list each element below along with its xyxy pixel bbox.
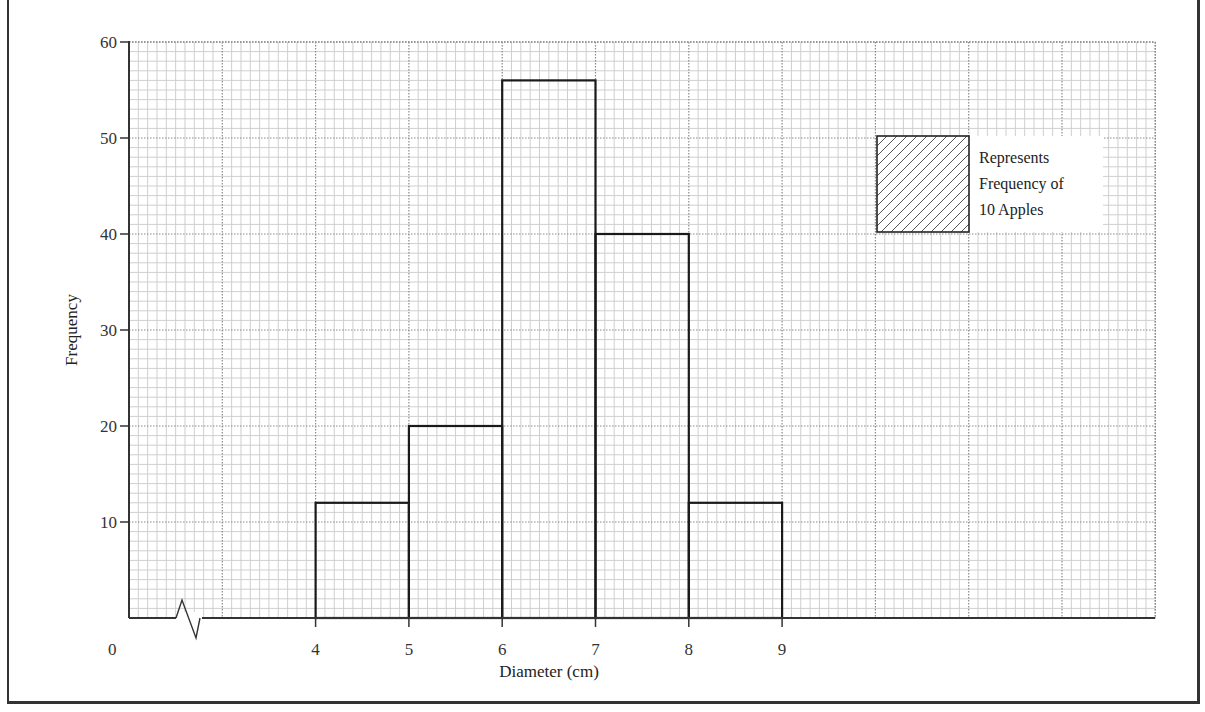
y-tick-label: 50 — [100, 129, 117, 148]
histogram-chart: 102030405060 456789 Represents Frequency… — [0, 0, 1205, 712]
x-tick-label: 6 — [498, 640, 507, 659]
y-tick-label: 40 — [100, 225, 117, 244]
x-tick-label: 7 — [591, 640, 600, 659]
x-tick-label: 4 — [311, 640, 320, 659]
y-tick-label: 30 — [100, 321, 117, 340]
y-tick-label: 10 — [100, 513, 117, 532]
hatch-line — [791, 136, 887, 232]
origin-label: 0 — [108, 640, 117, 659]
legend-line-2: Frequency of — [979, 175, 1065, 193]
x-tick-label: 8 — [685, 640, 694, 659]
legend-line-1: Represents — [979, 149, 1049, 167]
y-axis-ticks: 102030405060 — [100, 33, 129, 532]
legend-line-3: 10 Apples — [979, 201, 1043, 219]
x-axis-title: Diameter (cm) — [499, 662, 599, 681]
x-tick-label: 5 — [405, 640, 414, 659]
y-tick-label: 20 — [100, 417, 117, 436]
legend: Represents Frequency of 10 Apples — [781, 136, 1157, 232]
y-axis-title: Frequency — [62, 294, 81, 366]
axis-break-icon — [176, 600, 202, 638]
x-tick-label: 9 — [778, 640, 787, 659]
y-tick-label: 60 — [100, 33, 117, 52]
x-axis-ticks: 456789 — [311, 618, 786, 659]
